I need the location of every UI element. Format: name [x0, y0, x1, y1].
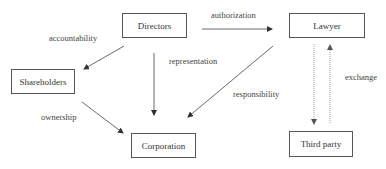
- node-directors: Directors: [122, 13, 187, 38]
- edge-label-representation: representation: [169, 56, 217, 66]
- edge-label-responsibility: responsibility: [233, 89, 279, 99]
- node-lawyer: Lawyer: [289, 13, 365, 38]
- edge-label-exchange: exchange: [345, 72, 377, 82]
- edge-accountability: [84, 46, 124, 69]
- edge-ownership: [82, 102, 123, 133]
- node-directors-label: Directors: [138, 21, 172, 31]
- edge-label-accountability: accountability: [49, 33, 97, 43]
- node-corporation: Corporation: [131, 133, 196, 158]
- node-third-party: Third party: [289, 131, 353, 157]
- node-lawyer-label: Lawyer: [313, 21, 340, 31]
- node-shareholders-label: Shareholders: [20, 77, 67, 87]
- edge-label-authorization: authorization: [211, 10, 256, 20]
- node-shareholders: Shareholders: [11, 69, 75, 94]
- node-third-party-label: Third party: [301, 139, 342, 149]
- edge-label-ownership: ownership: [41, 112, 76, 122]
- node-corporation-label: Corporation: [142, 141, 186, 151]
